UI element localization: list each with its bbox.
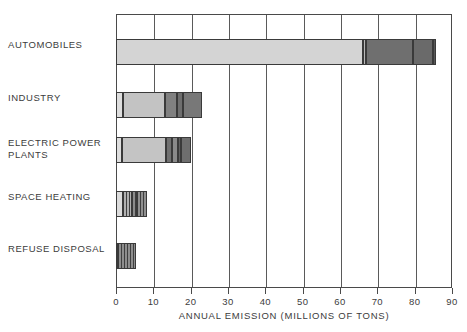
tick-label-70: 70 <box>362 296 392 307</box>
x-axis-title: ANNUAL EMISSION (MILLIONS OF TONS) <box>116 310 452 321</box>
bar-segment <box>122 137 166 163</box>
bar-segment <box>181 137 191 163</box>
tick-mark-80 <box>415 288 416 294</box>
bar-segment <box>166 137 173 163</box>
bar-segment <box>118 243 136 269</box>
bar-segment <box>116 39 362 65</box>
category-label-automobiles: AUTOMOBILES <box>8 39 112 51</box>
tick-mark-0 <box>116 288 117 294</box>
bar-segment <box>433 39 436 65</box>
bar-row <box>117 39 453 65</box>
tick-label-10: 10 <box>138 296 168 307</box>
bar-row <box>117 92 453 118</box>
tick-mark-70 <box>377 288 378 294</box>
tick-mark-50 <box>303 288 304 294</box>
category-label-refuse-disposal: REFUSE DISPOSAL <box>8 243 112 255</box>
tick-mark-30 <box>228 288 229 294</box>
tick-label-0: 0 <box>101 296 131 307</box>
bar-segment <box>366 39 413 65</box>
tick-label-40: 40 <box>250 296 280 307</box>
tick-label-90: 90 <box>437 296 467 307</box>
tick-label-20: 20 <box>176 296 206 307</box>
plot-area <box>116 14 452 288</box>
bar-row <box>117 243 453 269</box>
tick-label-30: 30 <box>213 296 243 307</box>
category-label-space-heating: SPACE HEATING <box>8 191 112 203</box>
category-label-industry: INDUSTRY <box>8 92 112 104</box>
tick-mark-60 <box>340 288 341 294</box>
category-label-column: AUTOMOBILES INDUSTRY ELECTRIC POWER PLAN… <box>8 0 112 332</box>
tick-label-60: 60 <box>325 296 355 307</box>
tick-mark-10 <box>153 288 154 294</box>
bar-segment <box>183 92 202 118</box>
bar-segment <box>165 92 177 118</box>
bar-chart: AUTOMOBILES INDUSTRY ELECTRIC POWER PLAN… <box>0 0 467 332</box>
tick-mark-90 <box>452 288 453 294</box>
bar-row <box>117 137 453 163</box>
bar-segment <box>123 191 132 217</box>
bar-segment <box>116 191 123 217</box>
bar-segment <box>137 191 147 217</box>
tick-mark-20 <box>191 288 192 294</box>
bar-segment <box>116 92 123 118</box>
tick-mark-40 <box>265 288 266 294</box>
bar-segment <box>413 39 433 65</box>
bar-segment <box>123 92 164 118</box>
tick-label-80: 80 <box>400 296 430 307</box>
bar-row <box>117 191 453 217</box>
category-label-electric-power-plants: ELECTRIC POWER PLANTS <box>8 137 112 160</box>
tick-label-50: 50 <box>288 296 318 307</box>
